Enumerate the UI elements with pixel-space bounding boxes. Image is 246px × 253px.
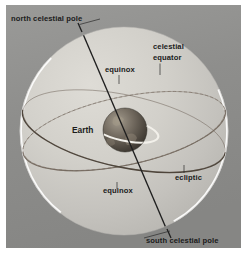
label-ecliptic: ecliptic: [175, 173, 202, 182]
label-north-celestial-pole: north celestial pole: [11, 14, 82, 23]
label-south-celestial-pole: south celestial pole: [146, 236, 218, 245]
label-celestial-equator-line1: celestial: [153, 42, 184, 51]
diagram-canvas: north celestial pole south celestial pol…: [0, 0, 246, 253]
label-earth: Earth: [72, 125, 93, 135]
label-equinox-upper: equinox: [105, 65, 135, 74]
celestial-sphere-figure: north celestial pole south celestial pol…: [0, 0, 246, 253]
label-celestial-equator-line2: equator: [153, 53, 182, 62]
label-equinox-lower: equinox: [103, 186, 133, 195]
